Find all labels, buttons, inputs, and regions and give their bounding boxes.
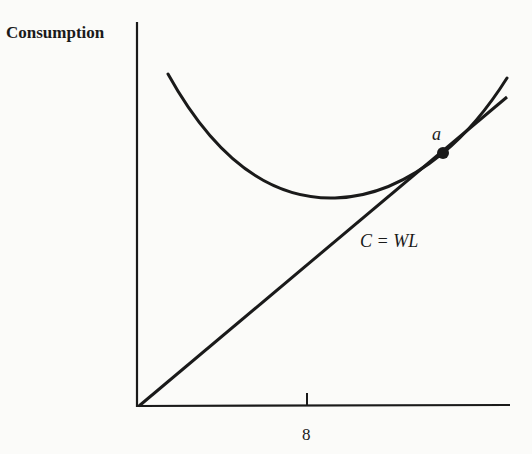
diagram-canvas: Consumption 8 a C = WL [0,0,532,454]
x-tick-label: 8 [302,425,311,444]
x-axis [137,405,510,406]
budget-line-label: C = WL [360,231,418,251]
y-axis-label: Consumption [6,23,105,42]
indifference-curve [168,74,507,198]
point-label-a: a [432,124,441,144]
budget-line [139,97,507,406]
tangency-point-a [437,147,449,159]
